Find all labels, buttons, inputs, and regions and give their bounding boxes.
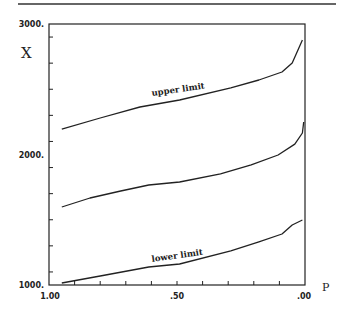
x-tick-1: 1.00 bbox=[40, 292, 60, 301]
curves bbox=[62, 40, 304, 283]
y-tick-3000: 3000. bbox=[19, 20, 44, 29]
y-tick-2000: 2000. bbox=[19, 151, 44, 160]
x-tick-0.5: .50 bbox=[170, 292, 185, 301]
plot-frame bbox=[49, 24, 305, 285]
chart: 3000. 2000. 1000. 1.00 .50 .00 X P upper… bbox=[0, 0, 342, 315]
x-tick-0: .00 bbox=[297, 292, 312, 301]
y-axis-title: X bbox=[21, 44, 32, 62]
lower-limit-label: lower limit bbox=[151, 247, 204, 264]
y-tick-1000: 1000. bbox=[19, 281, 44, 290]
estimate-curve bbox=[62, 122, 304, 207]
x-axis-title: P bbox=[322, 281, 330, 294]
